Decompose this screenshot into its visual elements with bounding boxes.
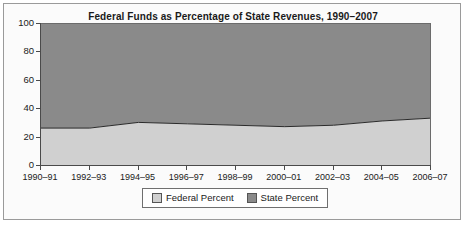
plot-area [40,23,431,166]
x-tick-label: 2004–05 [355,172,407,182]
y-tick-mark [36,23,40,24]
x-tick-label: 1992–93 [63,172,115,182]
x-tick-label: 1996–97 [160,172,212,182]
chart-title: Federal Funds as Percentage of State Rev… [4,11,462,22]
y-tick-mark [36,108,40,109]
x-tick-label: 2000–01 [258,172,310,182]
x-tick-mark [186,166,187,170]
x-tick-mark [333,166,334,170]
legend-item[interactable]: State Percent [247,192,319,203]
x-tick-mark [40,166,41,170]
x-tick-mark [430,166,431,170]
chart-frame: Federal Funds as Percentage of State Rev… [3,3,461,220]
legend-swatch-icon [247,193,257,203]
x-tick-mark [235,166,236,170]
y-tick-mark [36,137,40,138]
y-tick-mark [36,51,40,52]
y-tick-label: 60 [4,74,34,85]
x-tick-mark [381,166,382,170]
y-tick-label: 0 [4,159,34,170]
legend-item[interactable]: Federal Percent [152,192,234,203]
y-tick-label: 100 [4,17,34,28]
x-tick-mark [284,166,285,170]
y-tick-label: 80 [4,45,34,56]
y-tick-label: 40 [4,102,34,113]
x-tick-label: 1998–99 [209,172,261,182]
chart-legend: Federal PercentState Percent [142,188,328,208]
x-tick-label: 2006–07 [404,172,456,182]
x-tick-label: 1994–95 [112,172,164,182]
y-tick-label: 20 [4,131,34,142]
x-tick-label: 2002–03 [307,172,359,182]
stacked-area-series [41,23,431,165]
x-tick-label: 1990–91 [14,172,66,182]
x-tick-mark [138,166,139,170]
legend-swatch-icon [152,193,162,203]
y-tick-mark [36,80,40,81]
legend-label: Federal Percent [166,192,234,203]
legend-label: State Percent [261,192,319,203]
x-tick-mark [89,166,90,170]
